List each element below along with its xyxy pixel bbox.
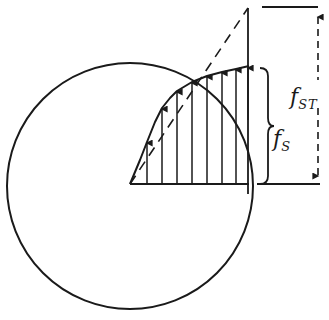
stress-curve [130, 66, 249, 184]
label-f-st: fST [290, 86, 318, 108]
fs-brace [260, 68, 274, 184]
stress-diagram: fST fS [0, 0, 329, 320]
stress-arrows [147, 68, 248, 184]
circle-outline [7, 63, 253, 309]
dashed-line [130, 8, 248, 184]
stress-distribution [130, 8, 249, 194]
brace-path [260, 68, 274, 184]
label-f-s: fS [273, 128, 291, 150]
diagram-canvas [0, 0, 329, 320]
linear-stress-dashed-line [130, 8, 248, 184]
section-circle [7, 63, 253, 309]
